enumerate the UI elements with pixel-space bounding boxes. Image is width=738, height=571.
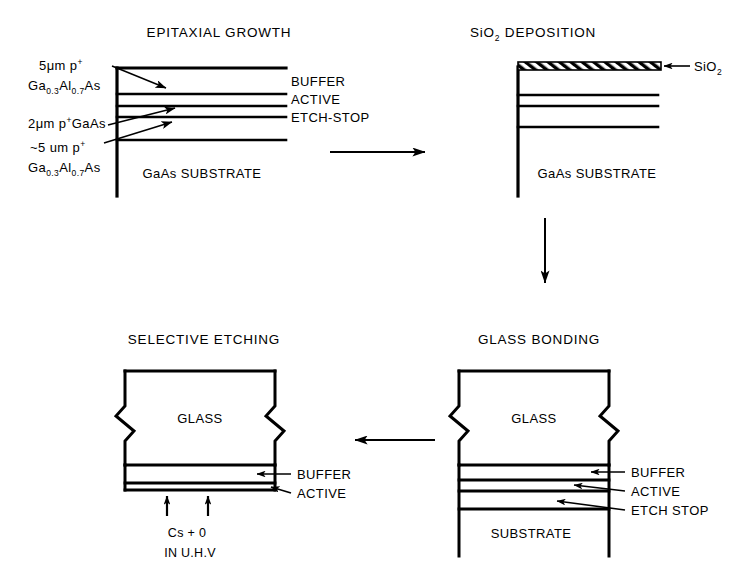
glass-block-label-etching: GLASS <box>177 411 222 426</box>
panel-glass-bonding: GLASS BONDING BUFFER ACTIVE ETCH STOP GL… <box>450 332 709 556</box>
panel-title-glass-bonding: GLASS BONDING <box>478 332 600 347</box>
layer-label-sio2: SiO2 <box>694 59 722 77</box>
epitaxial-left-label-3: ~5 um p+ Ga0.3Al0.7As <box>28 139 101 178</box>
layer-label-active-selective-etching: ACTIVE <box>297 486 346 501</box>
layer-label-active: ACTIVE <box>291 92 340 107</box>
layer-label-buffer-glass-bonding: BUFFER <box>631 465 685 480</box>
glass-block-label-bonding: GLASS <box>511 411 556 426</box>
substrate-label-epitaxial: GaAs SUBSTRATE <box>143 166 262 181</box>
substrate-label-sio2: GaAs SUBSTRATE <box>538 166 657 181</box>
process-flow-figure: EPITAXIAL GROWTH 5μm p+ Ga0.3Al0.7As 2μm… <box>0 0 738 571</box>
epitaxial-leader-lines <box>104 66 175 143</box>
panel-epitaxial-growth: EPITAXIAL GROWTH 5μm p+ Ga0.3Al0.7As 2μm… <box>28 25 369 196</box>
activation-caption-line-2: IN U.H.V <box>164 546 216 560</box>
layer-label-etch-stop: ETCH-STOP <box>291 110 369 125</box>
svg-text:Ga0.3Al0.7As: Ga0.3Al0.7As <box>28 78 101 96</box>
svg-text:Ga0.3Al0.7As: Ga0.3Al0.7As <box>28 160 101 178</box>
layer-label-active-glass-bonding: ACTIVE <box>631 484 680 499</box>
panel-title-sio2-deposition: SiO2 DEPOSITION <box>470 25 596 43</box>
substrate-label-glass-bonding: SUBSTRATE <box>491 526 572 541</box>
sio2-film-layer <box>518 62 661 70</box>
panel-title-selective-etching: SELECTIVE ETCHING <box>128 332 280 347</box>
panel-sio2-deposition: SiO2 DEPOSITION SiO2 GaAs SUBSTRATE <box>470 25 722 196</box>
svg-text:~5 um p+: ~5 um p+ <box>30 139 86 155</box>
panel-selective-etching: SELECTIVE ETCHING BUFFER ACTIVE GLASS Cs… <box>116 332 351 560</box>
svg-text:2μm p+GaAs: 2μm p+GaAs <box>28 115 106 131</box>
activation-arrows <box>167 496 208 516</box>
layer-label-etch-stop-glass-bonding: ETCH STOP <box>631 503 709 518</box>
layer-label-buffer-selective-etching: BUFFER <box>297 467 351 482</box>
selective-etching-drawing <box>116 371 284 490</box>
epitaxial-left-label-2: 2μm p+GaAs <box>28 115 106 131</box>
layer-label-buffer: BUFFER <box>291 74 345 89</box>
epitaxial-left-label-1: 5μm p+ Ga0.3Al0.7As <box>28 57 101 96</box>
panel-title-epitaxial-growth: EPITAXIAL GROWTH <box>147 25 292 40</box>
svg-text:5μm p+: 5μm p+ <box>39 57 83 73</box>
activation-caption-line-1: Cs + 0 <box>168 526 206 540</box>
